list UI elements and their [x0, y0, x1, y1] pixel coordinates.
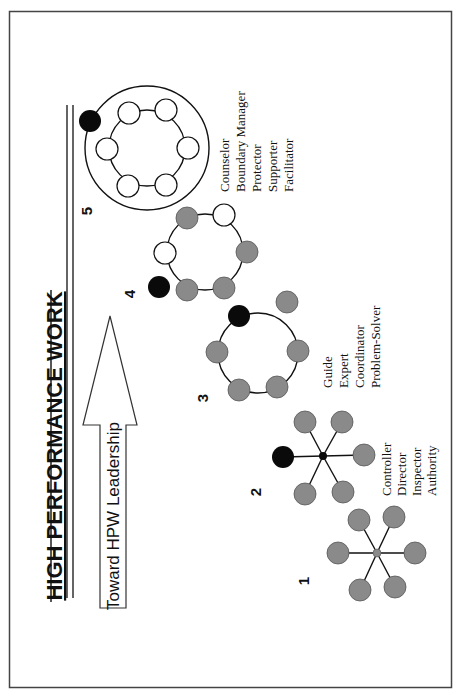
stage-3-number: 3	[194, 394, 211, 402]
member-node	[294, 483, 316, 505]
hub-leader-node	[373, 549, 381, 557]
page-title: HIGH PERFORMANCE WORK	[42, 291, 67, 600]
member-node	[96, 138, 118, 160]
role-label: Counselor	[217, 138, 232, 192]
stage-1-diagram	[327, 506, 426, 601]
member-node	[213, 204, 235, 226]
member-node	[294, 411, 316, 433]
stage-5-roles: Counselor Boundary Manager Protector Sup…	[217, 91, 296, 192]
member-node	[331, 411, 353, 433]
role-label: Facilitator	[281, 138, 296, 192]
member-node	[348, 509, 370, 531]
member-node	[228, 379, 250, 401]
member-node	[176, 279, 198, 301]
member-node	[353, 444, 375, 466]
stage-2-number: 2	[247, 488, 264, 496]
role-label: Expert	[336, 353, 351, 388]
member-node	[327, 542, 349, 564]
leader-node	[228, 305, 250, 327]
member-node	[154, 242, 176, 264]
role-label: Coordinator	[352, 325, 367, 388]
role-label: Director	[394, 452, 409, 496]
role-label: Boundary Manager	[233, 91, 248, 192]
stage-2-roles: Controller Director Inspector Authority	[379, 442, 439, 496]
member-node	[332, 481, 354, 503]
member-node	[176, 207, 198, 229]
team-ring	[109, 110, 185, 186]
member-node	[266, 376, 288, 398]
stage-4-diagram	[148, 204, 258, 301]
title-group: HIGH PERFORMANCE WORK	[42, 291, 67, 600]
member-node	[117, 175, 139, 197]
role-label: Controller	[379, 442, 394, 496]
role-label: Supporter	[265, 140, 280, 192]
stage-3-roles: Guide Expert Coordinator Problem-Solver	[320, 305, 383, 388]
member-node	[155, 99, 177, 121]
detached-member-node	[276, 291, 298, 313]
member-node	[118, 102, 140, 124]
member-node	[384, 576, 406, 598]
stage-5-diagram	[79, 86, 209, 210]
arrow-label: Toward HPW Leadership	[104, 422, 123, 610]
leader-node	[272, 446, 294, 468]
stage-4-number: 4	[121, 289, 138, 298]
role-label: Inspector	[409, 447, 424, 496]
leader-node	[79, 110, 101, 132]
role-label: Guide	[320, 356, 335, 388]
member-node	[177, 137, 199, 159]
role-label: Protector	[249, 144, 264, 192]
role-label: Problem-Solver	[368, 305, 383, 388]
member-node	[236, 241, 258, 263]
stage-3-diagram	[206, 291, 309, 401]
stage-1-number: 1	[295, 577, 312, 585]
member-node	[349, 579, 371, 601]
member-node	[287, 340, 309, 362]
hpw-diagram: HIGH PERFORMANCE WORK Toward HPW Leaders…	[0, 0, 455, 690]
member-node	[155, 174, 177, 196]
stage-2-diagram	[272, 411, 375, 505]
member-node	[383, 506, 405, 528]
member-node	[206, 341, 228, 363]
member-node	[213, 277, 235, 299]
role-label: Authority	[424, 445, 439, 496]
leader-node	[148, 276, 170, 298]
member-node	[404, 542, 426, 564]
hub-node	[319, 452, 327, 460]
stage-5-number: 5	[78, 207, 95, 215]
